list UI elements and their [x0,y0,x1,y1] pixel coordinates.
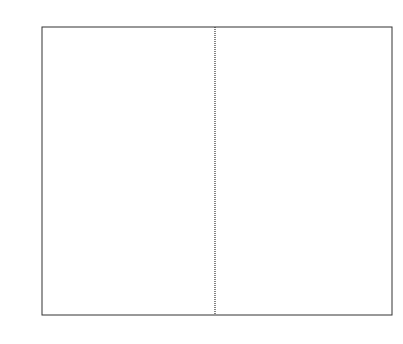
box-plot-chart [0,0,403,344]
plot-frame [42,27,392,315]
